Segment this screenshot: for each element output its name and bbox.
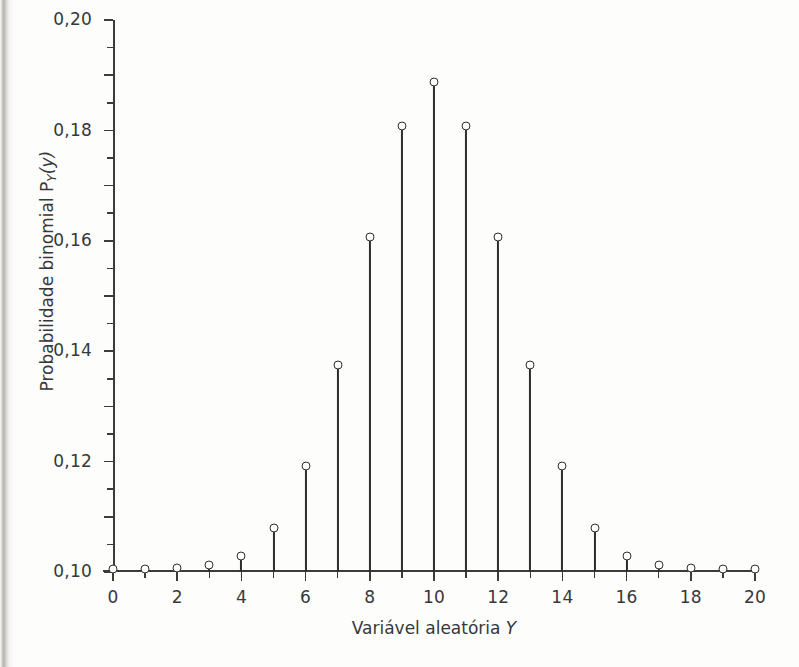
data-point-marker	[686, 563, 695, 572]
y-tick-label: 0,14	[53, 340, 92, 360]
data-point-marker	[205, 561, 214, 570]
x-tick-minor	[273, 572, 275, 578]
stem-line	[497, 241, 499, 572]
x-tick-label: 18	[680, 587, 702, 607]
y-tick-major: 0,12	[104, 240, 113, 242]
data-point-marker	[269, 523, 278, 532]
y-tick-label: 0,10	[53, 561, 92, 581]
y-tick-label: 0,12	[53, 451, 92, 471]
x-tick-major	[112, 572, 114, 581]
y-tick-minor	[107, 433, 113, 435]
data-point-marker	[365, 233, 374, 242]
x-tick-major	[497, 572, 499, 581]
y-tick-major: 0,14	[104, 185, 113, 187]
x-tick-label: 10	[423, 587, 445, 607]
x-tick-minor	[337, 572, 339, 578]
y-axis-title-argument: (y)	[37, 151, 57, 174]
x-tick-label: 14	[551, 587, 573, 607]
x-tick-major	[176, 572, 178, 581]
data-point-marker	[494, 233, 503, 242]
data-point-marker	[462, 122, 471, 131]
x-tick-major	[369, 572, 371, 581]
y-tick-major: 0,06	[104, 406, 113, 408]
x-tick-label: 0	[107, 587, 118, 607]
stem-line	[240, 559, 242, 572]
stem-line	[529, 368, 531, 572]
data-point-marker	[109, 564, 118, 573]
x-tick-minor	[658, 572, 660, 578]
data-point-marker	[301, 462, 310, 471]
x-tick-label: 2	[172, 587, 183, 607]
x-tick-major	[562, 572, 564, 581]
x-tick-major	[241, 572, 243, 581]
x-tick-label: 6	[300, 587, 311, 607]
y-tick-label: 0,18	[53, 120, 92, 140]
stem-line	[305, 470, 307, 572]
data-point-marker	[622, 551, 631, 560]
y-tick-minor	[107, 323, 113, 325]
stem-line	[465, 130, 467, 572]
y-tick-minor	[107, 378, 113, 380]
y-tick-major: 0,16	[104, 130, 113, 132]
stem-line	[433, 86, 435, 572]
x-tick-minor	[209, 572, 211, 578]
data-point-marker	[526, 360, 535, 369]
x-axis-title: Variável aleatória Y	[113, 618, 755, 638]
y-tick-label: 0,20	[53, 9, 92, 29]
y-tick-minor	[107, 268, 113, 270]
chart-page: Probabilidade binomial PY(y) 0,000,020,0…	[0, 0, 799, 667]
data-point-marker	[430, 78, 439, 87]
x-tick-minor	[401, 572, 403, 578]
stem-line	[626, 559, 628, 572]
data-point-marker	[558, 462, 567, 471]
y-tick-major: 0,18	[104, 74, 113, 76]
data-point-marker	[397, 122, 406, 131]
x-tick-major	[305, 572, 307, 581]
x-axis-title-text: Variável aleatória	[352, 618, 501, 638]
stem-line	[272, 531, 274, 572]
data-point-marker	[718, 564, 727, 573]
data-point-marker	[173, 563, 182, 572]
y-tick-major: 0,20	[104, 19, 113, 21]
data-point-marker	[654, 561, 663, 570]
x-tick-label: 12	[487, 587, 509, 607]
y-tick-minor	[107, 47, 113, 49]
stem-line	[369, 241, 371, 572]
x-tick-major	[754, 572, 756, 581]
x-tick-major	[690, 572, 692, 581]
data-point-marker	[751, 564, 760, 573]
y-tick-major: 0,08	[104, 350, 113, 352]
x-tick-major	[433, 572, 435, 581]
x-axis-title-variable: Y	[506, 618, 516, 638]
y-tick-major: 0,02	[104, 516, 113, 518]
y-axis-title-container: Probabilidade binomial PY(y)	[0, 0, 60, 667]
stem-line	[561, 470, 563, 572]
y-axis-title-subscript: Y	[45, 174, 59, 181]
stem-line	[337, 368, 339, 572]
y-tick-label: 0,16	[53, 230, 92, 250]
y-tick-minor	[107, 157, 113, 159]
data-point-marker	[590, 523, 599, 532]
y-tick-minor	[107, 212, 113, 214]
y-tick-major: 0,10	[104, 295, 113, 297]
x-tick-label: 16	[616, 587, 638, 607]
x-tick-major	[626, 572, 628, 581]
data-point-marker	[333, 360, 342, 369]
plot-area: 0,000,020,040,060,080,100,120,140,160,18…	[113, 20, 755, 572]
x-tick-label: 4	[236, 587, 247, 607]
x-tick-minor	[530, 572, 532, 578]
x-tick-minor	[594, 572, 596, 578]
data-point-marker	[141, 564, 150, 573]
data-point-marker	[237, 551, 246, 560]
y-axis-line	[113, 20, 115, 572]
x-tick-label: 8	[364, 587, 375, 607]
y-tick-minor	[107, 102, 113, 104]
y-tick-minor	[107, 488, 113, 490]
stem-line	[593, 531, 595, 572]
stem-line	[401, 130, 403, 572]
y-tick-major: 0,04	[104, 461, 113, 463]
x-tick-label: 20	[744, 587, 766, 607]
y-tick-minor	[107, 544, 113, 546]
x-tick-minor	[465, 572, 467, 578]
